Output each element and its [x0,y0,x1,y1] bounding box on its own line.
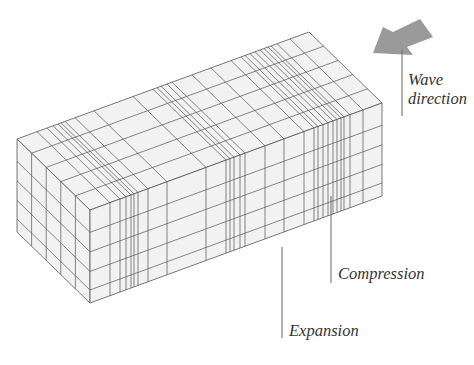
wave-label-line2: direction [408,90,467,109]
compression-label: Compression [338,265,424,284]
wave-direction-arrow-icon [373,19,433,55]
grid-box [17,32,382,303]
wave-label-line1: Wave [408,71,467,90]
wave-compression-diagram [0,0,474,365]
wave-direction-label: Wave direction [408,71,467,109]
expansion-label: Expansion [289,322,359,341]
